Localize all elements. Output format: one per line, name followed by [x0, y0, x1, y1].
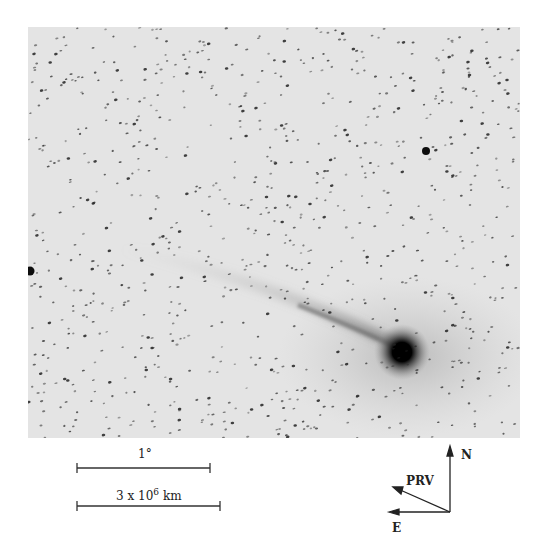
north-label: N — [461, 448, 472, 462]
scale-label-degree: 1° — [138, 447, 152, 461]
north-arrow-icon — [447, 446, 453, 456]
east-label: E — [392, 521, 401, 535]
prv-label: PRV — [406, 474, 434, 488]
east-arrow-icon — [389, 509, 399, 515]
annotations — [0, 0, 545, 555]
scale-bar-degree — [77, 463, 210, 473]
scale-label-km: 3 x 106 km — [116, 487, 182, 503]
scale-label-km-base: 3 x 10 — [116, 489, 153, 503]
prv-arrow-icon — [393, 487, 403, 494]
scale-label-km-exp: 6 — [153, 487, 159, 497]
scale-label-km-unit: km — [163, 489, 182, 503]
